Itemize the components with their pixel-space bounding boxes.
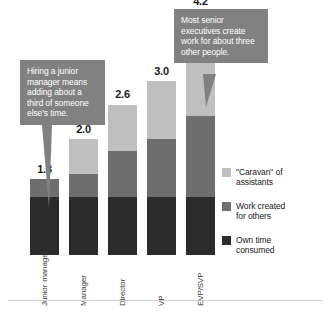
legend-swatch-caravan-icon: [222, 168, 231, 177]
bar-stack-director: [108, 105, 137, 255]
bar-segment-caravan-vp: [147, 81, 176, 139]
category-label-line1: Manager: [79, 275, 88, 306]
bar-total-label-vp: 3.0: [140, 65, 183, 77]
legend-item-work-created[interactable]: Work created for others: [222, 201, 322, 221]
callout-tail-senior-executive: [203, 74, 216, 107]
legend-label-line2: for others: [236, 211, 271, 221]
legend-label-line1: "Caravan" of: [236, 167, 282, 177]
category-label-line1: Director: [118, 279, 127, 306]
category-label-director: Director: [108, 258, 137, 306]
legend-swatch-work-created-icon: [222, 202, 231, 211]
callout-junior-manager: Hiring a junior manager means adding abo…: [20, 60, 105, 125]
bar-total-label-director: 2.6: [101, 88, 144, 100]
bar-stack-manager: [69, 139, 98, 255]
bar-segment-own-time-manager: [69, 197, 98, 255]
bar-stack-vp: [147, 81, 176, 255]
bar-segment-own-time-evp-svp: [186, 197, 215, 255]
bar-segment-caravan-manager: [69, 139, 98, 174]
category-label-line2: manager: [40, 251, 49, 282]
legend-label-work-created: Work created for others: [236, 201, 285, 221]
stacked-bar-chart: 1.3 2.0 2.6: [0, 0, 331, 316]
legend-swatch-own-time-icon: [222, 236, 231, 245]
bar-segment-work-created-director: [108, 151, 137, 197]
legend-label-line1: Work created: [236, 201, 285, 211]
bar-total-label-manager: 2.0: [62, 123, 105, 135]
category-label-manager: Manager: [69, 258, 98, 306]
callout-senior-executive: Most senior executives create work for a…: [174, 9, 268, 63]
legend-label-line2: assistants: [236, 177, 273, 187]
chart-legend: "Caravan" of assistants Work created for…: [222, 167, 322, 269]
legend-label-own-time: Own time consumed: [236, 235, 274, 255]
bar-total-label-evp-svp: 4.2: [179, 0, 222, 7]
legend-label-caravan: "Caravan" of assistants: [236, 167, 282, 187]
category-label-vp: VP: [147, 258, 176, 306]
bar-segment-caravan-director: [108, 105, 137, 151]
callout-tail-junior-manager: [42, 125, 52, 208]
bar-segment-work-created-evp-svp: [186, 116, 215, 197]
bar-segment-own-time-vp: [147, 197, 176, 255]
footer-divider: [8, 300, 323, 301]
category-label-junior-manager: Junior manager: [30, 258, 59, 306]
bar-segment-work-created-vp: [147, 139, 176, 197]
category-label-line1: Junior: [40, 285, 49, 306]
legend-item-own-time[interactable]: Own time consumed: [222, 235, 322, 255]
bar-segment-work-created-manager: [69, 174, 98, 197]
bar-segment-own-time-director: [108, 197, 137, 255]
legend-label-line1: Own time: [236, 235, 271, 245]
category-label-evp-svp: EVP/SVP: [186, 258, 215, 306]
legend-item-caravan[interactable]: "Caravan" of assistants: [222, 167, 322, 187]
legend-label-line2: consumed: [236, 245, 274, 255]
